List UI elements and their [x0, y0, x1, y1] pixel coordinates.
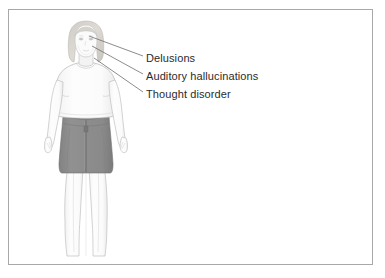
figure-skirt	[59, 116, 113, 173]
human-figure-illustration	[0, 0, 385, 278]
illustration-figure: Delusions Auditory hallucinations Though…	[0, 0, 385, 278]
label-delusions: Delusions	[146, 52, 195, 64]
figure-head	[75, 25, 97, 57]
label-auditory-hallucinations: Auditory hallucinations	[146, 70, 258, 82]
figure-torso	[56, 62, 117, 118]
label-thought-disorder: Thought disorder	[146, 88, 231, 100]
